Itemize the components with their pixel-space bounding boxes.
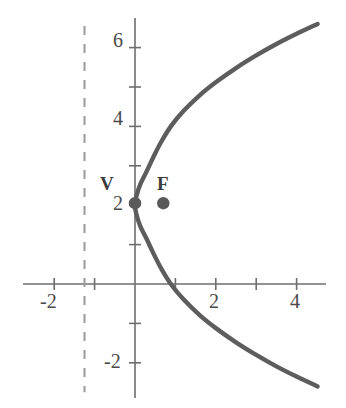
y-tick-label-neg2: -2 bbox=[104, 350, 121, 373]
vertex-label: V bbox=[100, 173, 114, 195]
x-tick-label-2: 2 bbox=[209, 290, 219, 313]
plot-canvas bbox=[0, 0, 346, 408]
y-tick-label-4: 4 bbox=[113, 107, 123, 130]
axes-group bbox=[23, 18, 326, 398]
focus-label: F bbox=[157, 173, 169, 195]
y-tick-label-6: 6 bbox=[113, 29, 123, 52]
focus-marker bbox=[157, 197, 169, 209]
parabola-figure: -2 2 4 6 4 2 -2 V F bbox=[0, 0, 346, 408]
x-tick-label-4: 4 bbox=[290, 290, 300, 313]
vertex-marker bbox=[129, 197, 141, 209]
y-tick-label-2: 2 bbox=[113, 192, 123, 215]
x-tick-label-neg2: -2 bbox=[40, 290, 57, 313]
marker-points bbox=[129, 197, 170, 209]
